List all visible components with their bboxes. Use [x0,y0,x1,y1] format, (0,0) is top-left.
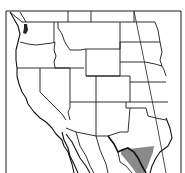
dakotas-east-border [155,22,166,76]
id-mt-border [58,22,86,50]
mt-wy-border [86,42,120,49]
or-id-border [54,42,56,68]
wa-or-border [20,42,55,45]
nv-ca-border [40,68,66,120]
nm-tx-border [96,102,130,136]
map-frame [6,11,181,173]
sd-ne-border [120,62,162,66]
us-canada-border-far-east [91,11,134,22]
mexico-state-border-1 [76,132,94,173]
baja-peninsula [62,132,78,173]
wyoming-outline [86,49,120,76]
az-mexico-border [66,128,96,136]
ut-co-border [86,76,96,102]
species-range-area [121,146,154,173]
ok-tx-border [130,108,166,120]
mexico-state-border-2 [96,136,108,173]
puget-sound [23,24,28,34]
range-map: Range map Western United States and nort… [0,0,185,173]
us-canada-border-east [68,11,91,22]
us-canada-border [26,11,68,22]
nv-ut-border [68,68,70,120]
pacific-coast [10,12,74,173]
map-canvas [0,0,185,173]
